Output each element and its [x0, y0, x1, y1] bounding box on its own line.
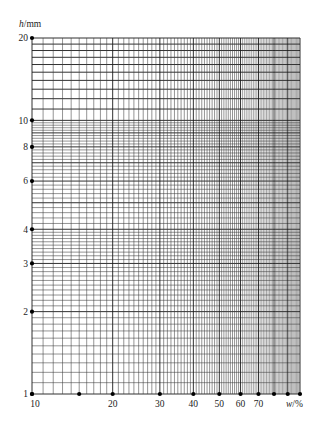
x-tick-marker — [77, 392, 81, 396]
y-tick-marker — [30, 261, 34, 265]
y-axis-unit: /mm — [24, 19, 42, 29]
x-tick-label: 60 — [236, 399, 246, 409]
y-tick-label: 20 — [19, 33, 29, 43]
y-tick-label: 6 — [23, 176, 28, 186]
x-axis-unit: /% — [292, 399, 303, 409]
x-tick-marker — [111, 392, 115, 396]
x-tick-label: 70 — [254, 399, 264, 409]
x-tick-label: 20 — [108, 399, 118, 409]
y-tick-marker — [30, 118, 34, 122]
y-tick-label: 3 — [23, 259, 28, 269]
y-tick-label: 2 — [23, 307, 28, 317]
y-tick-label: 8 — [23, 142, 28, 152]
x-tick-marker — [238, 392, 242, 396]
x-tick-marker — [256, 392, 260, 396]
y-tick-marker — [30, 36, 34, 40]
y-tick-label: 4 — [23, 225, 28, 235]
vertical-gridlines — [32, 38, 300, 394]
y-tick-label: 10 — [19, 116, 29, 126]
y-tick-marker — [30, 145, 34, 149]
x-axis-label: w/% — [286, 399, 303, 409]
x-tick-label: 10 — [30, 399, 40, 409]
axis-tick-markers — [30, 36, 302, 396]
y-axis-label: h/mm — [19, 19, 42, 29]
x-tick-marker — [158, 392, 162, 396]
x-tick-marker — [298, 392, 302, 396]
x-tick-marker — [217, 392, 221, 396]
log-log-chart: 123468102010203040506070 h/mm w/% — [0, 0, 325, 432]
y-tick-marker — [30, 310, 34, 314]
x-tick-marker — [272, 392, 276, 396]
x-tick-marker — [191, 392, 195, 396]
x-tick-label: 40 — [189, 399, 199, 409]
y-tick-marker — [30, 227, 34, 231]
y-tick-marker — [30, 179, 34, 183]
x-tick-label: 50 — [215, 399, 225, 409]
x-tick-marker — [30, 392, 34, 396]
x-tick-label: 30 — [155, 399, 165, 409]
x-tick-marker — [286, 392, 290, 396]
tick-labels: 123468102010203040506070 — [19, 33, 264, 409]
y-tick-label: 1 — [23, 389, 28, 399]
horizontal-gridlines — [32, 38, 300, 394]
